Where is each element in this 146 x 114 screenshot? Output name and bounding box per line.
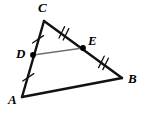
segment-AB xyxy=(22,78,122,97)
vertex-label-B: B xyxy=(128,72,137,85)
vertex-label-D: D xyxy=(16,47,25,60)
point-marker-E xyxy=(80,45,86,51)
vertex-label-A: A xyxy=(8,93,17,106)
geometry-figure: C E D B A xyxy=(0,0,146,114)
point-marker-D xyxy=(30,52,36,58)
vertex-label-C: C xyxy=(38,1,47,14)
vertex-label-E: E xyxy=(88,34,97,47)
segment-DE-midsegment xyxy=(33,48,83,55)
